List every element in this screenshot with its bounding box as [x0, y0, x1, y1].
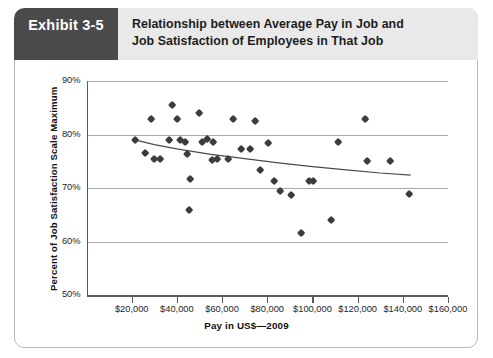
exhibit-title-line-1: Relationship between Average Pay in Job … — [132, 16, 468, 33]
exhibit-title: Relationship between Average Pay in Job … — [132, 16, 468, 49]
exhibit-title-line-2: Job Satisfaction of Employees in That Jo… — [132, 33, 468, 50]
exhibit-number-label: Exhibit 3-5 — [28, 17, 104, 33]
exhibit-figure: Exhibit 3-5 Relationship between Average… — [0, 0, 493, 358]
exhibit-number-tab: Exhibit 3-5 — [14, 8, 118, 60]
exhibit-header: Exhibit 3-5 Relationship between Average… — [14, 8, 478, 60]
